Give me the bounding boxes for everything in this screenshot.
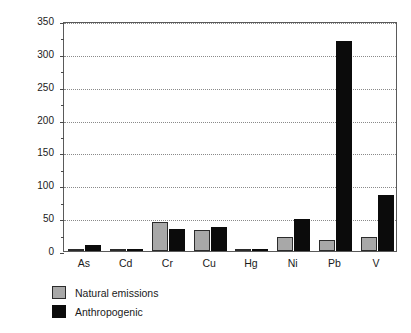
legend-item-natural: Natural emissions — [52, 283, 158, 302]
legend-swatch-anthro — [52, 305, 66, 318]
y-axis-tick-label: 150 — [0, 147, 54, 158]
y-axis-tick-label: 200 — [0, 115, 54, 126]
y-axis-tick-label: 300 — [0, 49, 54, 60]
x-axis-tick-label-hg: Hg — [231, 257, 271, 269]
bar-group-v — [64, 23, 398, 251]
y-axis-tick-label: 100 — [0, 180, 54, 191]
y-axis-tick-label: 50 — [0, 213, 54, 224]
x-axis-tick-label-v: V — [356, 257, 396, 269]
y-axis-tick-label: 350 — [0, 16, 54, 27]
x-axis-tick-label-cu: Cu — [189, 257, 229, 269]
bar-v-natural — [361, 237, 377, 251]
legend-label-anthro: Anthropogenic — [75, 306, 143, 318]
y-axis-tick — [60, 253, 64, 254]
x-axis-tick-label-pb: Pb — [314, 257, 354, 269]
bar-v-anthropogenic — [378, 195, 394, 252]
emissions-bar-chart-figure: Emissions (millions of kg yr-1) 05010015… — [0, 0, 411, 333]
plot-area — [63, 22, 397, 252]
chart-legend: Natural emissionsAnthropogenic — [52, 283, 158, 321]
x-axis-tick-label-as: As — [64, 257, 104, 269]
x-axis-tick-label-ni: Ni — [273, 257, 313, 269]
legend-swatch-natural — [52, 286, 66, 299]
legend-label-natural: Natural emissions — [75, 287, 158, 299]
y-axis-tick-label: 0 — [0, 246, 54, 257]
legend-item-anthro: Anthropogenic — [52, 302, 158, 321]
y-axis-tick-label: 250 — [0, 82, 54, 93]
x-axis-tick-label-cr: Cr — [147, 257, 187, 269]
x-axis-tick-label-cd: Cd — [106, 257, 146, 269]
